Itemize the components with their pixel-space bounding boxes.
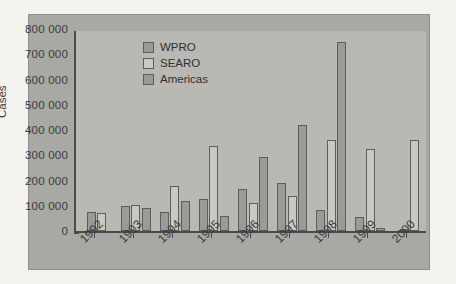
- y-axis-tick-label: 400 000: [25, 124, 68, 136]
- y-axis-tick-label: 0: [61, 225, 68, 237]
- bar: [337, 42, 346, 231]
- legend-label: SEARO: [160, 57, 200, 69]
- bar: [298, 125, 307, 231]
- bar: [410, 140, 419, 231]
- legend-swatch: [143, 42, 154, 53]
- legend-swatch: [143, 74, 154, 85]
- y-axis-tick-labels: 800 000700 000600 000500 000400 000300 0…: [0, 0, 68, 256]
- bar: [259, 157, 268, 231]
- x-axis-tick-labels: 199219931994199519961997199819992000: [74, 236, 434, 282]
- y-axis-tick-label: 800 000: [25, 23, 68, 35]
- legend-item: Americas: [143, 72, 253, 86]
- y-axis-tick-label: 200 000: [25, 175, 68, 187]
- legend-item: SEARO: [143, 56, 253, 70]
- legend-label: Americas: [160, 73, 208, 85]
- bar: [376, 228, 385, 231]
- chart-legend: WPROSEAROAmericas: [143, 40, 253, 88]
- y-axis-title: Cases: [0, 85, 8, 118]
- bar: [220, 216, 229, 231]
- legend-item: WPRO: [143, 40, 253, 54]
- y-axis-tick-label: 500 000: [25, 99, 68, 111]
- y-axis-tick-label: 300 000: [25, 149, 68, 161]
- y-axis-tick-label: 700 000: [25, 48, 68, 60]
- legend-swatch: [143, 58, 154, 69]
- y-axis-tick-label: 100 000: [25, 200, 68, 212]
- y-axis-tick-label: 600 000: [25, 74, 68, 86]
- legend-label: WPRO: [160, 41, 196, 53]
